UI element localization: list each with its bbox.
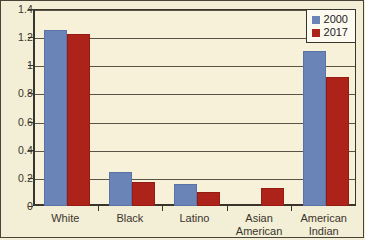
x-axis-label-line: American — [227, 225, 292, 238]
x-axis-label-line: Black — [98, 212, 163, 225]
bar-chart: 00.20.40.60.811.21.4 20002017 WhiteBlack… — [0, 0, 365, 240]
x-axis-label-latino: Latino — [162, 212, 227, 225]
legend-item-2017: 2017 — [312, 26, 348, 39]
x-axis-tick-mark — [162, 206, 163, 211]
legend-swatch-icon — [312, 16, 320, 24]
bar-american-indian-2000 — [303, 51, 326, 206]
legend-swatch-icon — [312, 29, 320, 37]
x-axis-label-asian-american: AsianAmerican — [227, 212, 292, 237]
y-axis: 00.20.40.60.811.21.4 — [0, 0, 33, 215]
x-axis-tick-mark — [227, 206, 228, 211]
x-axis-label-black: Black — [98, 212, 163, 225]
legend-label: 2017 — [324, 27, 348, 38]
bar-latino-2017 — [197, 192, 220, 206]
bar-white-2000 — [44, 30, 67, 206]
bar-black-2000 — [109, 172, 132, 206]
bar-asian-american-2017 — [261, 188, 284, 206]
legend-item-2000: 2000 — [312, 13, 348, 26]
bar-black-2017 — [132, 182, 155, 206]
y-axis-tick-mark — [28, 206, 33, 207]
bar-american-indian-2017 — [326, 77, 349, 206]
x-axis-tick-mark — [291, 206, 292, 211]
x-axis-label-line: White — [33, 212, 98, 225]
x-axis-tick-mark — [98, 206, 99, 211]
x-axis-label-line: Asian — [227, 212, 292, 225]
bar-latino-2000 — [174, 184, 197, 206]
legend-label: 2000 — [324, 14, 348, 25]
x-axis-label-line: Indian — [291, 225, 356, 238]
x-axis-label-line: Latino — [162, 212, 227, 225]
x-axis-label-american-indian: AmericanIndian — [291, 212, 356, 237]
bar-white-2017 — [67, 34, 90, 206]
legend: 20002017 — [306, 9, 356, 43]
x-axis-label-white: White — [33, 212, 98, 225]
x-axis-label-line: American — [291, 212, 356, 225]
